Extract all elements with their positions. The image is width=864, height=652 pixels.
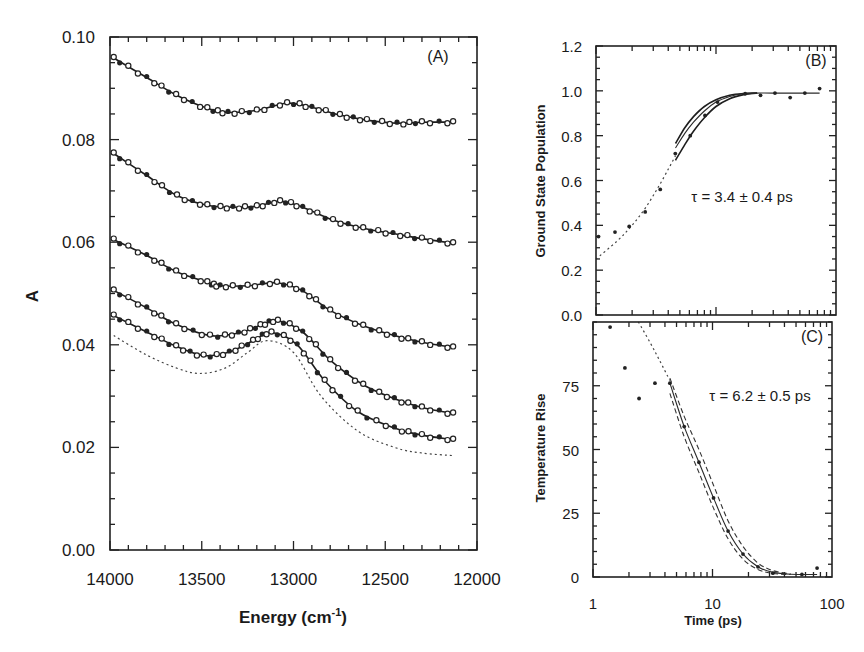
data-marker <box>117 156 122 161</box>
panel-c-x-axis-title: Time (ps) <box>684 613 742 628</box>
data-marker <box>419 432 424 437</box>
data-point <box>703 114 707 118</box>
data-marker <box>144 172 149 177</box>
data-marker <box>437 407 442 412</box>
data-marker <box>283 200 288 205</box>
y-tick-label: 0.02 <box>62 438 95 457</box>
data-marker <box>437 238 442 243</box>
data-marker <box>174 268 179 273</box>
data-marker <box>357 118 362 123</box>
data-marker <box>351 114 356 119</box>
data-marker <box>220 111 225 116</box>
y-tick-label: 0.2 <box>561 262 582 279</box>
data-marker <box>328 357 333 362</box>
data-marker <box>428 435 433 440</box>
data-marker <box>222 332 227 337</box>
data-marker <box>451 240 456 245</box>
data-marker <box>300 328 305 333</box>
data-marker <box>309 104 314 109</box>
data-marker <box>230 283 235 288</box>
data-marker <box>437 342 442 347</box>
data-point <box>613 230 617 234</box>
data-marker <box>174 192 179 197</box>
data-marker <box>307 294 312 299</box>
data-marker <box>369 388 374 393</box>
panel-b-tau-annotation: τ = 3.4 ± 0.4 ps <box>691 188 792 205</box>
panel-a-x-axis-title: Energy (cm-1) <box>239 606 347 627</box>
data-marker <box>117 292 122 297</box>
data-marker <box>281 321 286 326</box>
data-marker <box>437 434 442 439</box>
data-marker <box>361 322 366 327</box>
data-marker <box>247 110 252 115</box>
data-marker <box>445 411 450 416</box>
data-marker <box>428 239 433 244</box>
data-marker <box>182 198 187 203</box>
data-marker <box>255 337 260 342</box>
data-marker <box>399 336 404 341</box>
data-marker <box>401 122 406 127</box>
data-marker <box>237 206 242 211</box>
data-marker <box>174 321 179 326</box>
data-marker <box>353 225 358 230</box>
fit-curve <box>114 290 453 413</box>
data-marker <box>323 216 328 221</box>
data-marker <box>336 313 341 318</box>
y-tick-label: 0.6 <box>561 173 582 190</box>
data-marker <box>220 352 225 357</box>
extrapolation-curve <box>638 322 670 381</box>
data-marker <box>300 204 305 209</box>
data-marker <box>320 352 325 357</box>
data-marker <box>126 63 131 68</box>
data-marker <box>248 206 253 211</box>
data-marker <box>412 339 417 344</box>
x-tick-label: 12000 <box>453 570 500 589</box>
data-marker <box>215 335 220 340</box>
data-marker <box>355 408 360 413</box>
data-marker <box>287 282 292 287</box>
data-marker <box>313 342 318 347</box>
data-point <box>608 325 612 329</box>
data-marker <box>287 321 292 326</box>
data-marker <box>126 160 131 165</box>
data-marker <box>194 353 199 358</box>
y-tick-label: 0.04 <box>62 336 95 355</box>
data-marker <box>239 343 244 348</box>
data-marker <box>190 198 195 203</box>
data-point <box>653 381 657 385</box>
data-marker <box>239 109 244 114</box>
data-marker <box>445 241 450 246</box>
spectrum-series <box>111 287 456 417</box>
data-marker <box>167 190 172 195</box>
data-marker <box>152 258 157 263</box>
data-marker <box>211 205 216 210</box>
data-marker <box>117 60 122 65</box>
panel-c-temperature-chart: 0255075110100 (C) τ = 6.2 ± 0.5 ps Tempe… <box>533 322 845 628</box>
data-marker <box>406 400 411 405</box>
panel-c-y-axis-title: Temperature Rise <box>533 394 548 503</box>
data-marker <box>135 302 140 307</box>
data-marker <box>384 394 389 399</box>
data-point <box>673 152 677 156</box>
data-marker <box>384 332 389 337</box>
data-marker <box>399 400 404 405</box>
data-marker <box>336 366 341 371</box>
fit-curve <box>114 154 453 244</box>
data-marker <box>387 121 392 126</box>
data-marker <box>383 423 388 428</box>
data-marker <box>135 168 140 173</box>
data-marker <box>152 334 157 339</box>
data-marker <box>445 438 450 443</box>
panel-c-data-and-fit <box>608 322 819 576</box>
y-tick-label: 0.06 <box>62 233 95 252</box>
data-marker <box>337 111 342 116</box>
data-marker <box>419 404 424 409</box>
data-marker <box>182 273 187 278</box>
data-marker <box>307 209 312 214</box>
data-marker <box>330 217 335 222</box>
data-marker <box>253 326 258 331</box>
data-marker <box>364 117 369 122</box>
data-marker <box>405 233 410 238</box>
spectrum-series <box>111 312 456 443</box>
data-marker <box>277 103 282 108</box>
